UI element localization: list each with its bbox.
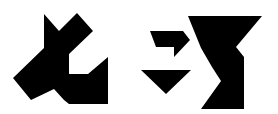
- tangram-canvas: [0, 0, 278, 114]
